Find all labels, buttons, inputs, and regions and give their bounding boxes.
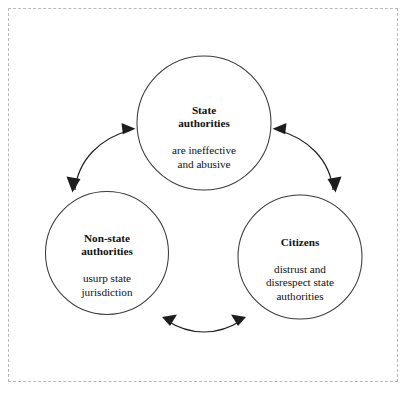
node-label-non-state-authorities: Non-state authorities usurp state jurisd… — [49, 218, 165, 313]
node-label-state-authorities: State authorities are ineffective and ab… — [144, 90, 264, 185]
connector-state-to-nonstate — [67, 123, 136, 193]
connector-path-right — [277, 130, 333, 190]
node-label-citizens: Citizens distrust and disrespect state a… — [243, 222, 357, 317]
node-description-non-state-authorities: usurp state jurisdiction — [49, 272, 165, 299]
connector-state-to-citizens — [273, 123, 342, 193]
connector-path-bottom — [166, 320, 242, 332]
node-title-citizens: Citizens — [243, 236, 357, 250]
arrow-head-left-upper — [122, 123, 136, 134]
connector-path-left — [75, 130, 131, 190]
node-title-non-state-authorities: Non-state authorities — [49, 232, 165, 259]
arrow-head-right-upper — [273, 123, 287, 134]
connector-nonstate-to-citizens — [162, 315, 246, 333]
diagram-canvas — [0, 0, 407, 393]
diagram-root: State authorities are ineffective and ab… — [0, 0, 407, 393]
arrow-head-bottom-left — [162, 315, 177, 327]
node-description-citizens: distrust and disrespect state authoritie… — [243, 263, 357, 304]
arrow-head-left-lower — [67, 177, 81, 193]
node-title-state-authorities: State authorities — [144, 104, 264, 131]
arrow-head-right-lower — [328, 177, 342, 193]
node-description-state-authorities: are ineffective and abusive — [144, 144, 264, 171]
